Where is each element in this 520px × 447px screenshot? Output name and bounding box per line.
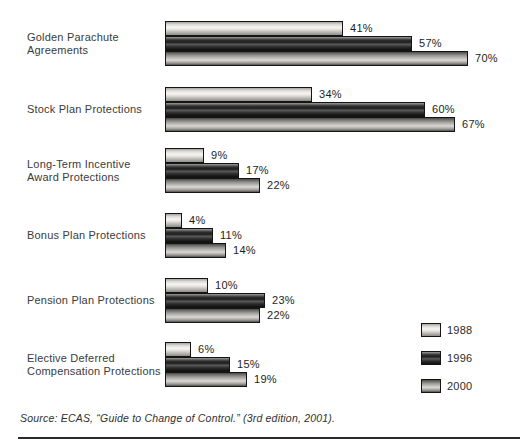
bar-1988-group-1 (165, 21, 343, 36)
category-label-3: Long-Term Incentive Award Protections (27, 158, 165, 184)
bar-1996-group-3 (165, 163, 239, 178)
category-label-4: Bonus Plan Protections (27, 229, 165, 242)
bar-1988-group-5 (165, 278, 208, 293)
value-label-1988-group-3: 9% (211, 149, 228, 162)
bar-1996-group-2 (165, 102, 425, 117)
value-label-1996-group-1: 57% (419, 37, 442, 50)
value-label-1988-group-1: 41% (350, 22, 373, 35)
legend-label-1996: 1996 (447, 352, 472, 364)
legend-swatch-1988-icon (421, 323, 441, 337)
bar-1988-group-4 (165, 213, 182, 228)
legend-item-1996: 1996 (421, 351, 472, 365)
legend-label-1988: 1988 (447, 324, 472, 336)
bar-2000-group-3 (165, 178, 260, 193)
value-label-1988-group-2: 34% (319, 88, 342, 101)
bar-1996-group-1 (165, 36, 412, 51)
source-note: Source: ECAS, “Guide to Change of Contro… (20, 412, 335, 424)
value-label-2000-group-5: 22% (267, 309, 290, 322)
bar-2000-group-1 (165, 51, 468, 66)
value-label-1996-group-6: 15% (237, 358, 260, 371)
bar-1988-group-2 (165, 87, 312, 102)
category-label-5: Pension Plan Protections (27, 294, 165, 307)
value-label-2000-group-4: 14% (233, 244, 256, 257)
value-label-1988-group-4: 4% (189, 214, 206, 227)
value-label-1988-group-5: 10% (215, 279, 238, 292)
value-label-1988-group-6: 6% (198, 343, 215, 356)
value-label-2000-group-2: 67% (462, 118, 485, 131)
value-label-2000-group-6: 19% (254, 373, 277, 386)
bar-1996-group-5 (165, 293, 265, 308)
value-label-1996-group-4: 11% (220, 229, 242, 242)
legend-item-2000: 2000 (421, 379, 472, 393)
bar-2000-group-4 (165, 243, 226, 258)
category-label-2: Stock Plan Protections (27, 103, 165, 116)
legend-label-2000: 2000 (447, 380, 472, 392)
bar-1996-group-4 (165, 228, 213, 243)
value-label-1996-group-3: 17% (246, 164, 269, 177)
value-label-1996-group-5: 23% (272, 294, 295, 307)
legend-swatch-2000-icon (421, 379, 441, 393)
bar-2000-group-5 (165, 308, 260, 323)
bottom-rule (18, 437, 520, 439)
chart-canvas: Golden Parachute Agreements41%57%70%Stoc… (0, 0, 520, 447)
chart-legend: 1988 1996 2000 (421, 323, 472, 407)
bar-1988-group-6 (165, 342, 191, 357)
bar-1988-group-3 (165, 148, 204, 163)
bar-2000-group-2 (165, 117, 455, 132)
bar-1996-group-6 (165, 357, 230, 372)
legend-item-1988: 1988 (421, 323, 472, 337)
value-label-2000-group-1: 70% (475, 52, 498, 65)
category-label-1: Golden Parachute Agreements (27, 31, 165, 57)
value-label-2000-group-3: 22% (267, 179, 290, 192)
value-label-1996-group-2: 60% (432, 103, 455, 116)
legend-swatch-1996-icon (421, 351, 441, 365)
bar-2000-group-6 (165, 372, 247, 387)
category-label-6: Elective Deferred Compensation Protectio… (27, 352, 165, 378)
